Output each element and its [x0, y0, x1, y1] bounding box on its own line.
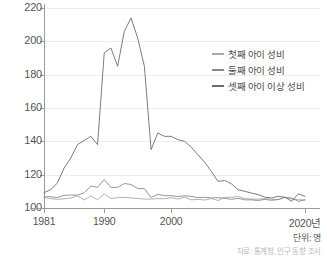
unit-note: 단위: 명	[293, 231, 321, 244]
x-axis-line	[30, 208, 320, 209]
y-tick-label: 120	[0, 168, 42, 180]
x-tick-label: 2020년	[289, 215, 321, 230]
legend-label: 둘째 아이 성비	[228, 63, 285, 77]
legend-item[interactable]: 셋째 아이 이상 성비	[212, 79, 305, 93]
x-tick-label: 1990	[93, 215, 116, 227]
series-line	[44, 18, 305, 201]
y-tick-label: 160	[0, 101, 42, 113]
x-tick-mark	[104, 208, 105, 213]
x-tick-mark	[44, 208, 45, 213]
x-tick-mark	[171, 208, 172, 213]
series-lines	[44, 8, 305, 208]
source-note: 자료: 통계청, 인구 동향 조사	[237, 245, 321, 256]
legend-line-icon	[212, 69, 224, 71]
plot-area	[44, 8, 305, 208]
legend-item[interactable]: 둘째 아이 성비	[212, 63, 305, 77]
legend-label: 셋째 아이 이상 성비	[228, 79, 305, 93]
y-tick-label: 200	[0, 34, 42, 46]
y-tick-label: 180	[0, 68, 42, 80]
x-tick-label: 2000	[160, 215, 183, 227]
y-tick-label: 220	[0, 1, 42, 13]
x-tick-label: 1981	[33, 215, 56, 227]
legend: 첫째 아이 성비둘째 아이 성비셋째 아이 이상 성비	[212, 47, 305, 93]
x-tick-mark	[305, 208, 306, 213]
legend-line-icon	[212, 53, 224, 55]
y-tick-label: 140	[0, 134, 42, 146]
legend-item[interactable]: 첫째 아이 성비	[212, 47, 305, 61]
legend-label: 첫째 아이 성비	[228, 47, 285, 61]
y-tick-label: 100	[0, 201, 42, 213]
legend-line-icon	[212, 85, 224, 87]
